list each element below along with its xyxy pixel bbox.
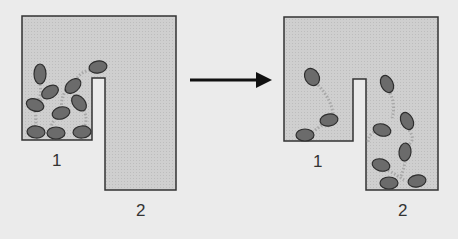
chamber-2-label: 2 — [136, 201, 145, 220]
bacterium — [34, 64, 46, 84]
chamber-outline-after — [284, 17, 438, 190]
before-panel: 1 2 — [22, 16, 176, 220]
bacterium — [380, 177, 398, 189]
bacterium — [296, 129, 314, 141]
chamber-outline-before — [22, 16, 176, 190]
chamber-1-label: 1 — [52, 151, 61, 170]
chamber-2-label: 2 — [398, 201, 407, 220]
chamber-1-label: 1 — [313, 152, 322, 171]
arrow-icon — [190, 72, 272, 88]
diagram: 1 2 1 2 — [0, 0, 458, 239]
bacteria-migration-figure: 1 2 1 2 — [0, 0, 458, 239]
after-panel: 1 2 — [284, 17, 438, 220]
bacterium — [47, 127, 65, 139]
